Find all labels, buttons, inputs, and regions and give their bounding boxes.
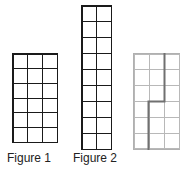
step-path [0, 0, 188, 169]
